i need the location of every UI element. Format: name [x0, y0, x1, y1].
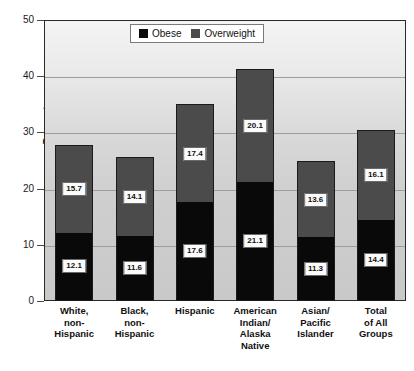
bar-value-label-overweight: 14.1 [123, 190, 147, 204]
y-tick-label-50: 50 [4, 14, 34, 25]
x-axis-labels: White,non-HispanicBlack,non-HispanicHisp… [44, 305, 406, 369]
chart-legend: ObeseOverweight [130, 24, 264, 43]
bar-group: 16.114.4 [357, 20, 395, 301]
bar-value-label-overweight: 17.4 [183, 147, 207, 161]
x-axis-label-line: Asian/ [285, 305, 345, 317]
x-axis-label-line: of All [346, 317, 406, 329]
bar-segment-obese: 14.4 [358, 220, 394, 300]
x-axis-label-line: Groups [346, 328, 406, 340]
y-tick-label-0: 0 [4, 295, 34, 306]
x-axis-label: Totalof AllGroups [346, 305, 406, 340]
x-axis-label-line: Hispanic [165, 305, 225, 317]
x-axis-label-line: Black, [104, 305, 164, 317]
bar-group: 14.111.6 [116, 20, 154, 301]
x-axis-label-line: Hispanic [104, 328, 164, 340]
bar-value-label-obese: 11.3 [304, 262, 327, 276]
y-tick-label-20: 20 [4, 183, 34, 194]
bar-value-label-obese: 17.6 [183, 244, 207, 258]
bar-segment-obese: 17.6 [177, 202, 213, 300]
bar-value-label-obese: 11.6 [123, 261, 146, 275]
x-axis-label-line: Pacific [285, 317, 345, 329]
bar-segment-obese: 21.1 [237, 182, 273, 300]
bar-segment-overweight: 15.7 [56, 146, 92, 233]
bar-stack: 17.417.6 [176, 104, 214, 301]
x-axis-label: AmericanIndian/AlaskaNative [225, 305, 285, 351]
legend-label: Overweight [204, 28, 255, 39]
y-tick-label-40: 40 [4, 70, 34, 81]
bar-value-label-overweight: 20.1 [243, 119, 267, 133]
bar-value-label-obese: 12.1 [62, 259, 86, 273]
y-tick-mark-50 [37, 20, 44, 21]
x-axis-label-line: Indian/ [225, 317, 285, 329]
x-axis-label-line: Total [346, 305, 406, 317]
bar-value-label-overweight: 16.1 [364, 168, 388, 182]
bar-segment-overweight: 13.6 [298, 162, 334, 237]
legend-item: Obese [139, 28, 181, 39]
bar-stack: 16.114.4 [357, 130, 395, 301]
bar-value-label-overweight: 15.7 [62, 182, 86, 196]
y-tick-mark-30 [37, 132, 44, 133]
legend-swatch-icon [191, 29, 200, 38]
legend-item: Overweight [191, 28, 255, 39]
bar-segment-overweight: 14.1 [117, 158, 153, 236]
bar-group: 20.121.1 [236, 20, 274, 301]
bar-value-label-obese: 21.1 [243, 234, 267, 248]
bars-layer: 15.712.114.111.617.417.620.121.113.611.3… [44, 20, 406, 301]
x-axis-label-line: Alaska [225, 328, 285, 340]
bar-group: 15.712.1 [55, 20, 93, 301]
x-axis-label-line: Hispanic [44, 328, 104, 340]
y-tick-label-30: 30 [4, 126, 34, 137]
bar-stack: 14.111.6 [116, 157, 154, 301]
x-axis-label: Hispanic [165, 305, 225, 317]
x-axis-label-line: non- [104, 317, 164, 329]
x-axis-label-line: Islander [285, 328, 345, 340]
y-tick-mark-20 [37, 189, 44, 190]
y-tick-label-10: 10 [4, 239, 34, 250]
bar-group: 13.611.3 [297, 20, 335, 301]
x-axis-label: Asian/PacificIslander [285, 305, 345, 340]
x-axis-label: White,non-Hispanic [44, 305, 104, 340]
x-axis-label-line: Native [225, 340, 285, 352]
bar-group: 17.417.6 [176, 20, 214, 301]
bar-segment-overweight: 16.1 [358, 131, 394, 220]
x-axis-label-line: non- [44, 317, 104, 329]
bar-stack: 20.121.1 [236, 69, 274, 301]
bar-segment-obese: 12.1 [56, 233, 92, 300]
y-tick-mark-0 [37, 301, 44, 302]
y-tick-mark-40 [37, 76, 44, 77]
bar-stack: 13.611.3 [297, 161, 335, 301]
bar-value-label-obese: 14.4 [364, 253, 388, 267]
bar-segment-overweight: 17.4 [177, 105, 213, 202]
x-axis-label-line: White, [44, 305, 104, 317]
x-axis-label: Black,non-Hispanic [104, 305, 164, 340]
y-tick-mark-10 [37, 245, 44, 246]
legend-swatch-icon [139, 29, 148, 38]
legend-label: Obese [152, 28, 181, 39]
x-axis-label-line: American [225, 305, 285, 317]
bar-value-label-overweight: 13.6 [304, 193, 328, 207]
bar-segment-obese: 11.3 [298, 237, 334, 300]
bar-segment-obese: 11.6 [117, 236, 153, 300]
bar-stack: 15.712.1 [55, 145, 93, 301]
stacked-bar-chart: Percent 01020304050 15.712.114.111.617.4… [0, 0, 414, 371]
bar-segment-overweight: 20.1 [237, 70, 273, 182]
